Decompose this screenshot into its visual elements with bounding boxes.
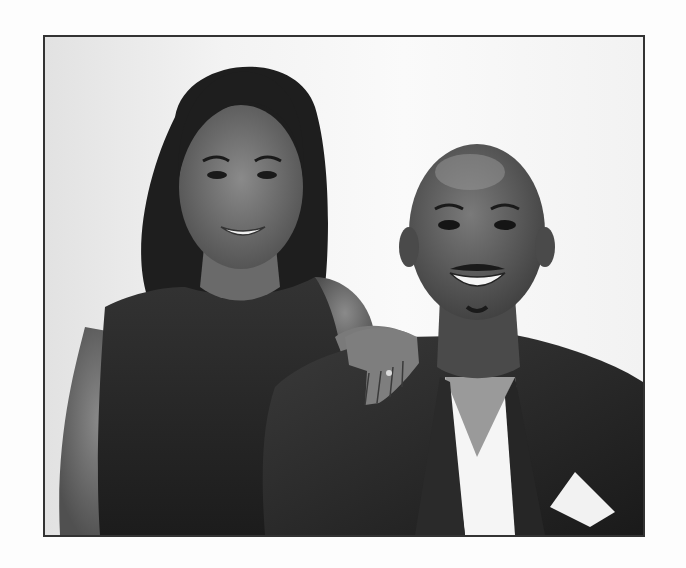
page: Black and white portrait of a smiling wo… [0,0,686,568]
portrait-photo [45,37,643,535]
photo-frame [43,35,645,537]
